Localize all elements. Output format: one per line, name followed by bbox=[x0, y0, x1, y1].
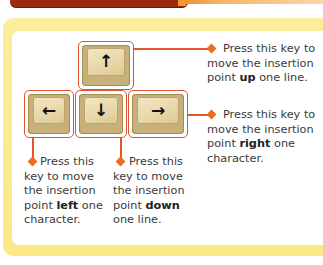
up-leader-line bbox=[133, 48, 213, 50]
up-arrow-key[interactable]: ↑ bbox=[82, 45, 130, 86]
section-header-bar: KEYBOARD SHORTCUTS bbox=[10, 0, 188, 8]
down-arrow-icon: ↓ bbox=[84, 101, 118, 118]
down-callout: Press this key to move the insertion poi… bbox=[113, 155, 193, 228]
left-callout: Press this key to move the insertion poi… bbox=[24, 155, 104, 228]
left-arrow-key[interactable]: ← bbox=[28, 94, 70, 134]
right-arrow-key[interactable]: → bbox=[132, 94, 184, 134]
key-face: ↑ bbox=[87, 48, 125, 76]
right-arrow-icon: → bbox=[137, 101, 179, 118]
header-accent-stripe bbox=[178, 0, 323, 4]
key-face: ↓ bbox=[84, 97, 118, 124]
right-key-outline: → bbox=[128, 90, 188, 138]
down-key-outline: ↓ bbox=[75, 90, 127, 138]
left-key-outline: ← bbox=[24, 90, 74, 138]
callout-text: one line. bbox=[256, 71, 308, 84]
left-arrow-icon: ← bbox=[33, 101, 65, 118]
down-arrow-key[interactable]: ↓ bbox=[79, 94, 123, 134]
up-key-outline: ↑ bbox=[78, 41, 134, 90]
callout-emphasis: down bbox=[145, 199, 179, 212]
up-callout: Press this key to move the insertion poi… bbox=[207, 42, 319, 86]
callout-emphasis: up bbox=[239, 71, 255, 84]
callout-emphasis: left bbox=[56, 199, 78, 212]
callout-text: one line. bbox=[113, 213, 162, 226]
key-face: ← bbox=[33, 97, 65, 124]
key-face: → bbox=[137, 97, 179, 124]
right-callout: Press this key to move the insertion poi… bbox=[207, 108, 319, 166]
callout-emphasis: right bbox=[239, 137, 270, 150]
header-accent-block bbox=[178, 0, 186, 6]
up-arrow-icon: ↑ bbox=[87, 53, 125, 70]
